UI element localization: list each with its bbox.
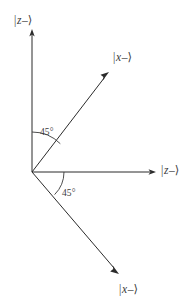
ket-angle-glyph: ⟩ (28, 14, 33, 26)
diagram-canvas (0, 0, 192, 308)
label-z-minus-vertical: |z–⟩ (14, 15, 32, 27)
ket-angle-glyph: ⟩ (133, 283, 138, 295)
lower-right-vector-line (32, 172, 114, 268)
label-x-minus-lower: |x–⟩ (119, 284, 138, 296)
angle-label-upper: 45° (40, 128, 54, 138)
ket-angle-glyph: ⟩ (175, 164, 180, 176)
angle-label-lower: 45° (62, 189, 76, 199)
upper-right-vector-arrowhead-icon (101, 72, 110, 81)
lower-right-vector-arrowhead-icon (110, 265, 119, 274)
label-z-minus-horizontal: |z–⟩ (161, 165, 179, 177)
upper-right-vector-line (32, 78, 105, 173)
ket-angle-glyph: ⟩ (127, 51, 132, 63)
vector-diagram: |z–⟩ |z–⟩ |x–⟩ |x–⟩ 45° 45° (0, 0, 192, 308)
label-x-minus-upper: |x–⟩ (113, 52, 132, 64)
